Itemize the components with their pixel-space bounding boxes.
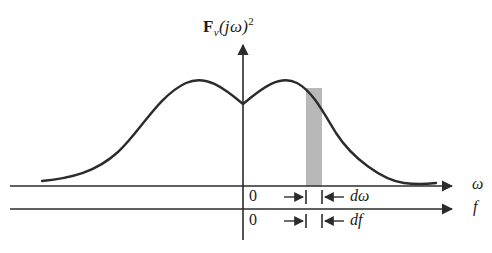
spectral-density-figure: Fv(jω)2 ω f 0 0 dω df	[0, 0, 492, 253]
omega-origin-label: 0	[249, 188, 257, 204]
figure-title: Fv(jω)2	[203, 16, 254, 38]
title-exponent: 2	[248, 15, 254, 27]
omega-increment-markers	[284, 190, 344, 204]
frequency-origin-label: 0	[249, 212, 257, 228]
title-function-symbol: F	[203, 17, 214, 36]
spectral-density-curve	[42, 80, 436, 184]
frequency-axis-label: f	[473, 199, 477, 215]
differential-band-shading	[306, 88, 322, 186]
omega-axis-label: ω	[472, 176, 483, 192]
omega-increment-label: dω	[350, 188, 369, 204]
title-omega-symbol: ω	[230, 17, 242, 36]
frequency-increment-label: df	[350, 212, 362, 228]
frequency-increment-markers	[284, 214, 344, 228]
